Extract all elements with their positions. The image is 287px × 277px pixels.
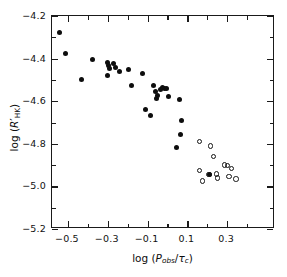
axis-tick xyxy=(52,144,58,145)
data-point-filled-circles xyxy=(57,30,62,35)
axis-tick xyxy=(267,16,273,17)
x-tick-label: 0.1 xyxy=(179,233,195,244)
data-point-filled-circles xyxy=(140,71,145,76)
axis-tick xyxy=(247,224,248,228)
data-point-filled-circles xyxy=(179,118,184,123)
data-point-filled-circles xyxy=(107,66,112,71)
data-point-filled-circles xyxy=(90,57,95,62)
axis-tick xyxy=(167,16,168,20)
x-tick-label: 0.3 xyxy=(218,233,234,244)
axis-tick xyxy=(52,186,58,187)
data-point-open-circles xyxy=(226,174,231,179)
data-point-open-circles xyxy=(211,154,216,159)
data-point-filled-circles xyxy=(63,51,68,56)
axis-tick xyxy=(52,165,56,166)
axis-tick xyxy=(52,80,56,81)
x-tick-label: −0.3 xyxy=(95,233,119,244)
data-point-open-circles xyxy=(229,166,234,171)
axis-tick xyxy=(207,16,208,20)
axis-tick xyxy=(270,208,274,209)
data-point-open-circles xyxy=(215,175,220,180)
data-point-open-circles xyxy=(197,168,202,173)
y-tick-label: −4.2 xyxy=(15,10,46,21)
y-tick-label: −5.2 xyxy=(15,223,46,234)
axis-tick xyxy=(52,229,58,230)
axis-tick xyxy=(270,80,274,81)
y-axis-title: log (R′HK) xyxy=(8,68,21,188)
data-point-filled-circles xyxy=(126,67,131,72)
data-point-filled-circles xyxy=(178,132,183,137)
axis-tick xyxy=(227,16,228,22)
data-point-open-circles xyxy=(233,176,238,181)
axis-tick xyxy=(167,224,168,228)
data-point-filled-circles xyxy=(174,145,179,150)
axis-tick xyxy=(68,221,69,227)
data-point-filled-circles xyxy=(151,83,156,88)
axis-tick xyxy=(128,16,129,20)
axis-tick xyxy=(270,37,274,38)
axis-tick xyxy=(227,221,228,227)
axis-tick xyxy=(270,165,274,166)
axis-tick xyxy=(128,224,129,228)
data-point-filled-circles xyxy=(79,77,84,82)
axis-tick xyxy=(52,37,56,38)
data-point-filled-circles xyxy=(148,113,153,118)
axis-tick xyxy=(88,16,89,20)
data-point-filled-circles xyxy=(129,83,134,88)
x-tick-label: −0.5 xyxy=(55,233,79,244)
axis-tick xyxy=(267,101,273,102)
data-points-layer xyxy=(52,16,273,227)
data-point-open-circles xyxy=(208,143,213,148)
data-point-filled-circles xyxy=(117,69,122,74)
axis-tick xyxy=(108,221,109,227)
axis-tick xyxy=(207,224,208,228)
axis-tick xyxy=(270,123,274,124)
axis-tick xyxy=(52,123,56,124)
data-point-filled-circles xyxy=(105,73,110,78)
data-point-filled-circles xyxy=(177,97,182,102)
data-point-filled-circles xyxy=(143,107,148,112)
axis-tick xyxy=(52,208,56,209)
axis-tick xyxy=(88,224,89,228)
data-point-filled-circles xyxy=(166,94,171,99)
plot-frame xyxy=(51,15,274,228)
axis-tick xyxy=(267,229,273,230)
axis-tick xyxy=(68,16,69,22)
data-point-filled-circles xyxy=(155,93,160,98)
axis-tick xyxy=(108,16,109,22)
axis-tick xyxy=(267,144,273,145)
x-axis-title: log (Pobs/τc) xyxy=(51,252,274,265)
axis-tick xyxy=(52,101,58,102)
axis-tick xyxy=(52,16,58,17)
x-tick-label: −0.1 xyxy=(135,233,159,244)
axis-tick xyxy=(267,186,273,187)
scatter-plot-figure: −0.5−0.3−0.10.10.3−4.2−4.4−4.6−4.8−5.0−5… xyxy=(0,0,287,277)
data-point-open-circles xyxy=(197,139,202,144)
axis-tick xyxy=(247,16,248,20)
axis-tick xyxy=(267,59,273,60)
axis-tick xyxy=(187,221,188,227)
axis-tick xyxy=(148,221,149,227)
data-point-filled-circles xyxy=(164,86,169,91)
y-tick-label: −4.4 xyxy=(15,52,46,63)
axis-tick xyxy=(52,59,58,60)
data-point-open-circles xyxy=(200,178,205,183)
axis-tick xyxy=(148,16,149,22)
data-point-open-circles xyxy=(206,172,211,177)
axis-tick xyxy=(187,16,188,22)
